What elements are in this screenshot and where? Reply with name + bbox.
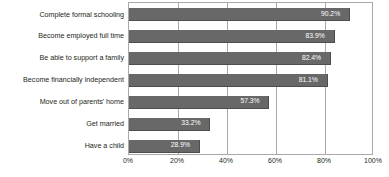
bar-value-label: 90.2%: [321, 11, 340, 18]
bar[interactable]: [129, 52, 331, 65]
x-tick-label: 0%: [123, 157, 133, 164]
plot-area: 90.2%83.9%82.4%81.1%57.3%33.2%28.9%: [128, 2, 373, 155]
bar-value-label: 57.3%: [240, 98, 259, 105]
x-tick-label: 60%: [268, 157, 282, 164]
bar-row: 83.9%: [129, 30, 373, 43]
bar-row: 90.2%: [129, 8, 373, 21]
bar-row: 57.3%: [129, 96, 373, 109]
bar-value-label: 82.4%: [302, 55, 321, 62]
category-label: Complete formal schooling: [0, 11, 124, 18]
category-label: Have a child: [0, 142, 124, 149]
x-tick-label: 20%: [170, 157, 184, 164]
category-label: Be able to support a family: [0, 54, 124, 61]
x-tick-label: 40%: [219, 157, 233, 164]
bar-value-label: 83.9%: [306, 33, 325, 40]
bar-value-label: 28.9%: [171, 142, 190, 149]
bar-row: 81.1%: [129, 74, 373, 87]
bar-row: 82.4%: [129, 52, 373, 65]
value-axis: 0%20%40%60%80%100%: [128, 157, 373, 173]
bar[interactable]: [129, 30, 335, 43]
bar-value-label: 81.1%: [299, 77, 318, 84]
bar-row: 33.2%: [129, 118, 373, 131]
bar[interactable]: [129, 8, 350, 21]
x-tick-label: 100%: [364, 157, 382, 164]
category-label: Move out of parents' home: [0, 98, 124, 105]
bar-row: 28.9%: [129, 140, 373, 153]
category-label: Get married: [0, 120, 124, 127]
category-label: Become employed full time: [0, 32, 124, 39]
x-tick-label: 80%: [317, 157, 331, 164]
bar-chart: Complete formal schoolingBecome employed…: [0, 0, 389, 177]
category-axis: Complete formal schoolingBecome employed…: [0, 2, 126, 155]
category-label: Become financially independent: [0, 76, 124, 83]
bar-value-label: 33.2%: [181, 120, 200, 127]
